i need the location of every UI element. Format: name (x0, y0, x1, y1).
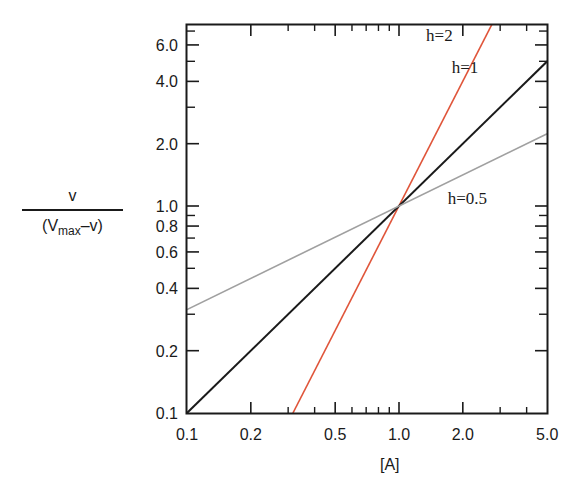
y-tick-label: 6.0 (156, 37, 178, 54)
fraction-bar (22, 209, 123, 211)
y-axis-label: v (Vmax–v) (20, 186, 125, 242)
curve-label: h=2 (426, 26, 453, 45)
y-tick-label: 0.2 (156, 343, 178, 360)
y-tick-label: 1.0 (156, 198, 178, 215)
y-tick-label: 0.6 (156, 244, 178, 261)
y-tick-label: 0.8 (156, 218, 178, 235)
y-axis-label-denominator: (Vmax–v) (20, 215, 125, 242)
plot-frame (187, 25, 548, 414)
y-tick-label: 0.4 (156, 280, 178, 297)
x-tick-label: 0.5 (324, 426, 346, 443)
x-tick-label: 2.0 (452, 426, 474, 443)
curve-label: h=0.5 (448, 189, 487, 208)
x-axis-label: [A] (380, 456, 400, 474)
hill-plot: 0.10.20.51.02.05.00.10.20.40.60.81.02.04… (0, 0, 575, 503)
series-line-h-1 (187, 61, 547, 413)
series-lines (187, 21, 547, 413)
y-tick-label: 2.0 (156, 136, 178, 153)
x-tick-label: 0.1 (176, 426, 198, 443)
x-tick-label: 5.0 (536, 426, 558, 443)
y-tick-label: 4.0 (156, 73, 178, 90)
series-line-h-2 (293, 21, 494, 413)
series-line-h-0-5 (187, 134, 547, 310)
x-tick-label: 0.2 (240, 426, 262, 443)
curve-label: h=1 (452, 58, 479, 77)
y-axis-label-numerator: v (20, 186, 125, 206)
x-tick-label: 1.0 (388, 426, 410, 443)
axis-ticks: 0.10.20.51.02.05.00.10.20.40.60.81.02.04… (156, 25, 559, 443)
y-tick-label: 0.1 (156, 405, 178, 422)
